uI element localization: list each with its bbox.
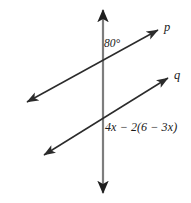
geometry-diagram-canvas (0, 0, 191, 203)
line-label-p: p (164, 21, 170, 34)
line-q (44, 78, 168, 155)
angle-expression-label: 4x − 2(6 − 3x) (105, 121, 177, 133)
angle-measure-label: 80° (104, 38, 120, 50)
geometry-figure: 80° 4x − 2(6 − 3x) p q (0, 0, 191, 203)
line-label-q: q (174, 69, 180, 82)
line-p (27, 30, 158, 102)
